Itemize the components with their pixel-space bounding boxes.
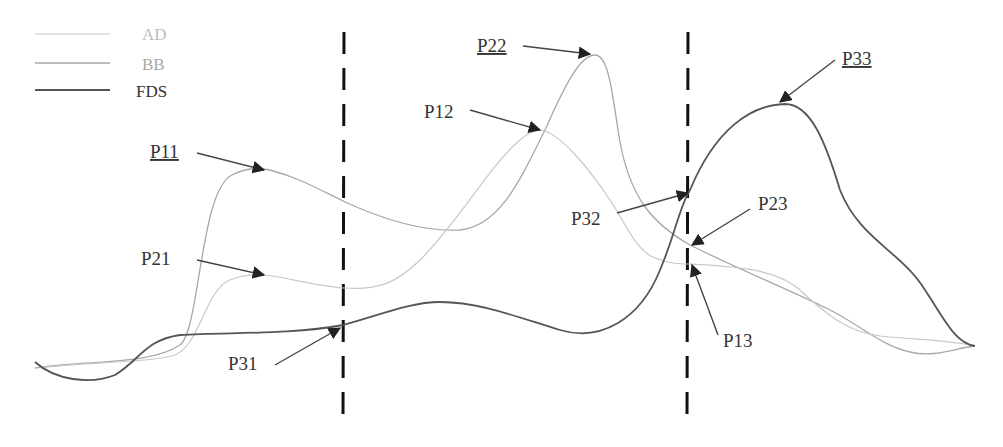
arrow-p31 — [275, 328, 340, 365]
label-p32: P32 — [571, 208, 601, 229]
label-p23: P23 — [758, 193, 788, 214]
arrow-p22 — [523, 46, 590, 54]
arrow-p21 — [197, 260, 264, 275]
arrow-p23 — [692, 209, 750, 245]
divider-line-1 — [343, 32, 344, 420]
legend-label-bb: BB — [142, 55, 165, 74]
label-p33: P33 — [842, 48, 872, 69]
arrow-p12 — [470, 110, 540, 130]
divider-line-2 — [687, 32, 688, 420]
legend-label-fds: FDS — [136, 82, 167, 101]
label-p21: P21 — [141, 248, 171, 269]
label-p12: P12 — [424, 101, 454, 122]
label-p22: P22 — [477, 35, 507, 56]
arrow-p11 — [197, 153, 264, 170]
curve-bb — [35, 55, 975, 368]
arrow-p33 — [780, 60, 835, 102]
curve-diagram: AD BB FDS P11 P12 P13 P21 P22 P23 P31 P3… — [0, 0, 1003, 447]
legend-label-ad: AD — [142, 25, 167, 44]
label-p13: P13 — [723, 330, 753, 351]
label-p31: P31 — [228, 353, 258, 374]
label-p11: P11 — [150, 141, 179, 162]
legend: AD BB FDS — [35, 25, 167, 101]
curve-ad — [40, 130, 975, 368]
arrow-p32 — [617, 193, 688, 213]
arrow-p13 — [692, 265, 718, 335]
